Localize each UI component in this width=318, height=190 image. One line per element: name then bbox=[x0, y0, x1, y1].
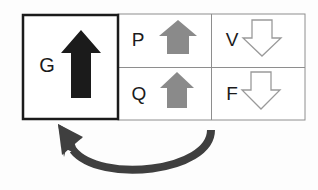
cell-q-label: Q bbox=[132, 83, 147, 104]
cell-p[interactable]: P bbox=[118, 14, 212, 68]
cell-p-label: P bbox=[132, 29, 145, 50]
cell-v[interactable]: V bbox=[212, 14, 306, 68]
cell-f[interactable]: F bbox=[212, 68, 306, 121]
diagram-canvas: P V Q F bbox=[0, 0, 318, 190]
goal-box[interactable]: G bbox=[23, 15, 118, 119]
curved-arrow-left-up-icon bbox=[58, 124, 211, 170]
cell-f-label: F bbox=[226, 83, 238, 104]
cell-q[interactable]: Q bbox=[118, 68, 212, 121]
goal-box-label: G bbox=[39, 54, 55, 76]
diagram-svg: P V Q F bbox=[0, 0, 318, 190]
cell-v-label: V bbox=[226, 29, 239, 50]
